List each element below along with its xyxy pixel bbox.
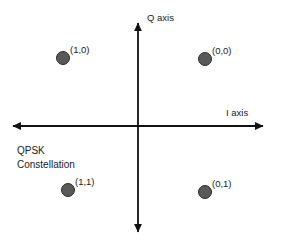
constellation-point-label: (0,1): [212, 178, 232, 189]
constellation-point-label: (1,0): [70, 44, 90, 55]
figure-caption: QPSK Constellation: [17, 144, 75, 171]
constellation-marker: [56, 51, 70, 65]
caption-line-2: Constellation: [17, 158, 75, 172]
constellation-marker: [61, 183, 75, 197]
constellation-marker: [198, 52, 212, 66]
axes-svg: [0, 0, 290, 244]
q-axis-label: Q axis: [147, 12, 174, 23]
constellation-marker: [198, 185, 212, 199]
i-axis-label: I axis: [226, 107, 248, 118]
caption-line-1: QPSK: [17, 144, 75, 158]
qpsk-constellation-figure: Q axis I axis (1,0) (0,0) (1,1) (0,1) QP…: [0, 0, 290, 244]
constellation-point-label: (0,0): [212, 45, 232, 56]
constellation-point-label: (1,1): [75, 176, 95, 187]
